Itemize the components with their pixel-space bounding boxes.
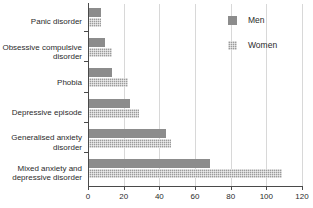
legend-swatch-women-icon xyxy=(228,41,237,50)
legend-item-men: Men xyxy=(228,12,308,28)
bar-group: Mixed anxiety anddepressive disorder xyxy=(0,155,313,185)
x-axis-tick-label: 80 xyxy=(226,192,235,202)
legend-label-women: Women xyxy=(248,40,277,50)
x-axis-tick-label: 100 xyxy=(260,192,273,202)
x-axis-tick xyxy=(195,186,196,190)
bar-men xyxy=(89,129,166,138)
x-axis-tick xyxy=(302,186,303,190)
category-label: Generalised anxietydisorder xyxy=(0,133,82,152)
x-axis-tick-label: 40 xyxy=(155,192,164,202)
legend-label-men: Men xyxy=(248,15,265,25)
bar-women xyxy=(89,48,112,57)
bar-group: Generalised anxietydisorder xyxy=(0,125,313,155)
legend-item-women: Women xyxy=(228,37,308,53)
bar-women xyxy=(89,109,139,118)
category-label: Panic disorder xyxy=(0,17,82,27)
legend-swatch-men-icon xyxy=(228,16,237,25)
x-axis-tick xyxy=(266,186,267,190)
category-label: Obsessive compulsivedisorder xyxy=(0,43,82,62)
bar-group: Depressive episode xyxy=(0,95,313,125)
bar-men xyxy=(89,8,101,17)
category-label: Depressive episode xyxy=(0,108,82,118)
bar-men xyxy=(89,99,130,108)
x-axis-tick xyxy=(88,186,89,190)
x-axis-tick-label: 60 xyxy=(191,192,200,202)
x-axis-tick-label: 120 xyxy=(295,192,308,202)
x-axis-tick xyxy=(124,186,125,190)
bar-women xyxy=(89,78,128,87)
x-axis-tick-label: 0 xyxy=(86,192,90,202)
legend: Men Women xyxy=(228,12,308,62)
bar-group: Phobia xyxy=(0,64,313,94)
x-axis-tick-label: 20 xyxy=(119,192,128,202)
bar-women xyxy=(89,139,171,148)
category-label: Phobia xyxy=(0,78,82,88)
bar-women xyxy=(89,169,282,178)
bar-men xyxy=(89,159,210,168)
bar-chart: 020406080100120 Panic disorderObsessive … xyxy=(0,0,313,208)
x-axis-tick xyxy=(231,186,232,190)
x-axis-tick xyxy=(159,186,160,190)
bar-men xyxy=(89,68,112,77)
category-label: Mixed anxiety anddepressive disorder xyxy=(0,164,82,183)
bar-women xyxy=(89,18,101,27)
bar-men xyxy=(89,38,105,47)
